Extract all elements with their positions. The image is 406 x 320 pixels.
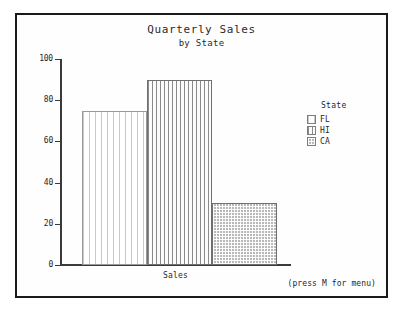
y-axis-tick [55,59,60,60]
y-axis-tick [55,265,60,266]
y-axis-tick [55,100,60,101]
y-axis-tick-label: 60 [44,137,53,145]
legend-title: State [321,101,377,111]
y-axis-tick [55,224,60,225]
chart-subtitle: by State [17,37,386,49]
legend-swatch-fl [307,115,316,124]
legend-swatch-hi [307,126,316,135]
y-axis-tick-label: 0 [48,261,53,269]
y-axis-tick-label: 80 [44,96,53,104]
menu-hint-text: (press M for menu) [288,279,377,289]
legend-item-fl[interactable]: FL [307,114,377,124]
legend-item-ca[interactable]: CA [307,136,377,146]
legend-swatch-ca [307,137,316,146]
legend-label: CA [320,137,330,146]
y-axis-tick [55,141,60,142]
legend-label: FL [320,115,330,124]
page-title: Quarterly Sales [17,23,386,37]
chart-window-frame: Quarterly Sales by State 020406080100 Sa… [15,13,388,298]
y-axis-tick [55,183,60,184]
y-axis-line [60,59,62,266]
bar-fl [82,111,147,266]
bar-hi [147,80,212,265]
y-axis-tick-label: 20 [44,220,53,228]
y-axis-tick-label: 100 [39,55,53,63]
legend-entries: FLHICA [307,114,377,146]
legend-label: HI [320,126,330,135]
legend: State FLHICA [307,101,377,147]
y-axis-tick-label: 40 [44,179,53,187]
legend-item-hi[interactable]: HI [307,125,377,135]
x-axis-category-label: Sales [60,271,291,281]
bar-ca [212,203,277,265]
plot-area: 020406080100 [60,59,291,265]
title-block: Quarterly Sales by State [17,23,386,49]
